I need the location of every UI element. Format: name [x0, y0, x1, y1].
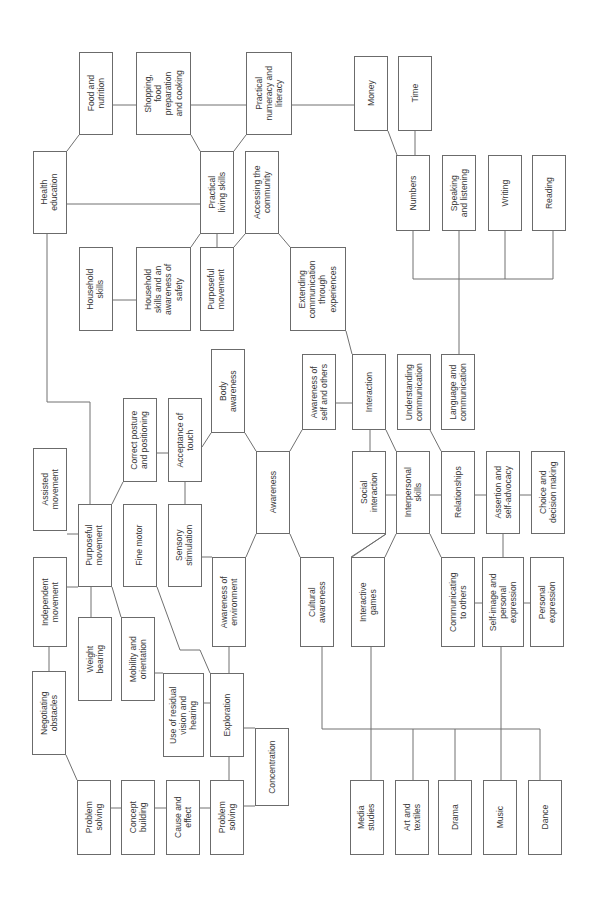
- connector-line: [191, 234, 200, 247]
- node-label: Cultural awareness: [307, 581, 327, 623]
- node-label: Food and nutrition: [86, 75, 106, 111]
- node-label: Personal expression: [537, 581, 557, 623]
- node-label: Relationships: [453, 467, 463, 519]
- connector-line: [234, 135, 246, 151]
- node-dance: Dance: [528, 780, 562, 855]
- connector-line: [430, 534, 441, 557]
- node-self-image: Self-image and personal expression: [482, 557, 524, 647]
- connector-line: [386, 430, 396, 451]
- node-awareness-self-others: Awareness of self and others: [302, 354, 336, 430]
- node-label: Dance: [540, 805, 550, 830]
- node-money: Money: [354, 56, 388, 131]
- node-relationships: Relationships: [441, 451, 475, 534]
- node-household-safety: Household skills and an awareness of saf…: [136, 247, 191, 331]
- node-cause-effect: Cause and effect: [166, 780, 200, 855]
- node-numbers: Numbers: [396, 155, 430, 231]
- node-label: Time: [410, 84, 420, 103]
- node-label: Weight bearing: [85, 645, 105, 674]
- node-label: Concentration: [267, 740, 277, 794]
- node-label: Extending communication through experien…: [298, 260, 339, 318]
- connector-line: [346, 331, 352, 354]
- node-label: Problem solving: [217, 802, 237, 834]
- node-extending-communication: Extending communication through experien…: [290, 247, 346, 331]
- node-personal-expression: Personal expression: [530, 557, 564, 647]
- node-label: Speaking and listening: [449, 169, 469, 217]
- node-correct-posture: Correct posture and positioning: [123, 398, 157, 482]
- node-label: Numbers: [408, 176, 418, 211]
- node-label: Practical numeracy and literacy: [254, 66, 285, 120]
- connector-line: [66, 755, 77, 780]
- node-label: Language and communication: [448, 363, 468, 421]
- node-media-studies: Media studies: [350, 780, 384, 855]
- node-label: Practical living skills: [207, 172, 227, 213]
- node-label: Mobility and orientation: [128, 636, 148, 682]
- node-concept-building: Concept building: [121, 780, 155, 855]
- node-language-communication: Language and communication: [441, 354, 475, 430]
- node-accessing-community: Accessing the community: [245, 151, 279, 234]
- node-art-textiles: Art and textiles: [395, 780, 429, 855]
- node-purposeful-movement: Purposeful movement: [78, 504, 112, 587]
- connector-line: [290, 430, 302, 451]
- node-fine-motor: Fine motor: [123, 504, 157, 587]
- node-label: Reading: [544, 177, 554, 209]
- node-music: Music: [483, 780, 517, 855]
- node-label: Independent movement: [40, 578, 60, 626]
- node-label: Assisted movement: [40, 469, 60, 509]
- connector-line: [157, 587, 210, 673]
- node-weight-bearing: Weight bearing: [78, 617, 112, 701]
- node-shopping: Shopping, food preparation and cooking: [136, 52, 191, 135]
- node-label: Interaction: [364, 372, 374, 412]
- connector-line: [385, 534, 396, 557]
- node-awareness-environment: Awareness of environment: [212, 557, 246, 647]
- connector-line: [322, 647, 540, 780]
- node-drama: Drama: [438, 780, 472, 855]
- node-label: Negotiating obstacles: [39, 691, 59, 734]
- connector-line: [245, 433, 256, 451]
- node-concentration: Concentration: [255, 728, 289, 806]
- node-label: Assertion and self-advocacy: [493, 466, 513, 519]
- node-label: Exploration: [222, 693, 232, 736]
- node-household-skills: Household skills: [79, 247, 113, 331]
- node-label: Money: [366, 81, 376, 107]
- node-practical-living: Practical living skills: [200, 151, 234, 234]
- node-label: Choice and decision making: [538, 462, 558, 524]
- node-label: Cause and effect: [173, 797, 193, 839]
- node-problem-solving-1: Problem solving: [77, 780, 111, 855]
- node-label: Writing: [500, 180, 510, 207]
- connector-line: [112, 587, 121, 617]
- node-health-education: Health education: [33, 151, 67, 234]
- node-label: Shopping, food preparation and cooking: [143, 70, 184, 116]
- node-label: Understanding communication: [404, 363, 424, 421]
- node-time: Time: [398, 56, 432, 131]
- node-label: Body awareness: [218, 370, 238, 412]
- node-label: Drama: [450, 805, 460, 831]
- node-label: Household skills and an awareness of saf…: [143, 263, 184, 314]
- node-label: Accessing the community: [252, 166, 272, 220]
- node-mobility-orientation: Mobility and orientation: [121, 617, 155, 701]
- node-assisted-movement: Assisted movement: [33, 448, 67, 531]
- node-writing: Writing: [488, 155, 522, 231]
- connector-line: [67, 135, 79, 151]
- node-label: Awareness: [268, 471, 278, 513]
- node-body-awareness: Body awareness: [211, 349, 245, 433]
- node-label: Purposeful movement: [85, 525, 105, 566]
- connector-line: [352, 534, 386, 557]
- node-label: Art and textiles: [402, 804, 422, 832]
- node-reading: Reading: [532, 155, 566, 231]
- node-awareness: Awareness: [256, 451, 290, 534]
- node-cultural-awareness: Cultural awareness: [300, 557, 334, 647]
- node-purposeful-movement-top: Purposeful movement: [200, 247, 234, 331]
- node-practical-numeracy: Practical numeracy and literacy: [246, 52, 292, 135]
- node-speaking-listening: Speaking and listening: [442, 155, 476, 231]
- node-choice-decision: Choice and decision making: [531, 451, 565, 534]
- connector-line: [290, 534, 300, 557]
- connector-line: [202, 433, 211, 447]
- node-interaction: Interaction: [352, 354, 386, 430]
- node-interactive-games: Interactive games: [351, 557, 385, 647]
- connector-line: [246, 534, 256, 557]
- node-label: Problem solving: [84, 802, 104, 834]
- concept-map-diagram: Food and nutritionShopping, food prepara…: [0, 0, 601, 911]
- node-label: Household skills: [86, 268, 106, 309]
- connector-line: [191, 135, 200, 151]
- node-residual-vision: Use of residual vision and hearing: [163, 673, 204, 757]
